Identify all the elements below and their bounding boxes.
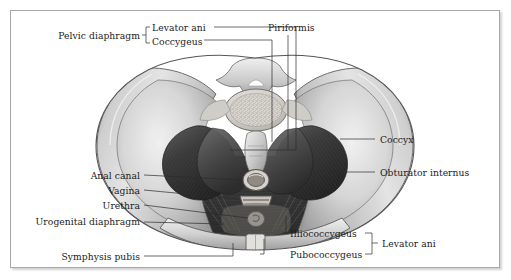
leader-anal-canal — [144, 175, 243, 180]
leader-symphysis-pubis — [144, 243, 233, 256]
leader-urethra — [144, 205, 248, 218]
label-urogenital-diaphragm: Urogenital diaphragm — [36, 216, 140, 227]
leader-vagina — [144, 190, 239, 199]
leader-levator-ani-top — [214, 27, 296, 150]
figure-stage: Pelvic diaphragm Levator ani Coccygeus P… — [0, 0, 511, 280]
label-vagina: Vagina — [108, 185, 140, 196]
label-piriformis: Piriformis — [268, 22, 315, 33]
label-levator-ani-bottom: Levator ani — [382, 238, 436, 249]
label-illiococcygeus: Illiococcygeus — [290, 228, 357, 239]
leader-coccygeus — [204, 40, 272, 142]
label-levator-ani-top: Levator ani — [152, 22, 206, 33]
label-symphysis-pubis: Symphysis pubis — [61, 251, 140, 262]
levator-ani-bracket — [365, 233, 378, 254]
label-obturator-internus: Obturator internus — [380, 167, 469, 178]
label-coccyx: Coccyx — [380, 134, 414, 145]
label-anal-canal: Anal canal — [91, 170, 140, 181]
label-coccygeus: Coccygeus — [152, 36, 202, 47]
pelvic-diaphragm-bracket — [142, 27, 150, 43]
label-urethra: Urethra — [103, 200, 140, 211]
label-pelvic-diaphragm: Pelvic diaphragm — [58, 30, 140, 41]
leader-urogenital-diaphragm — [144, 222, 224, 224]
label-pubococcygeus: Pubococcygeus — [290, 249, 362, 260]
